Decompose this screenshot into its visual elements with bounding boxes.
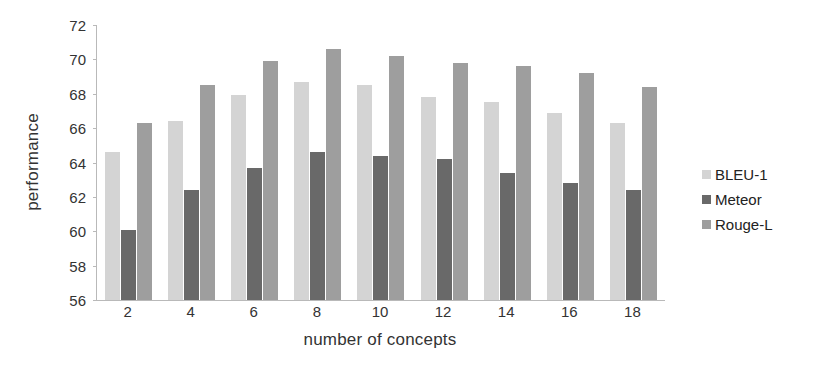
bar-meteor-18 bbox=[626, 190, 641, 300]
bar-group bbox=[160, 25, 223, 300]
bar-bleu-1-16 bbox=[547, 113, 562, 300]
x-axis-tick-label: 6 bbox=[222, 303, 285, 320]
bar-rouge-l-4 bbox=[200, 85, 215, 300]
bar-group bbox=[413, 25, 476, 300]
y-axis-tick-label: 68 bbox=[52, 85, 86, 102]
y-axis-tick-mark bbox=[93, 300, 97, 301]
bar-meteor-10 bbox=[373, 156, 388, 300]
bar-meteor-14 bbox=[500, 173, 515, 300]
bar-group bbox=[539, 25, 602, 300]
bar-bleu-1-18 bbox=[610, 123, 625, 300]
x-axis-tick-label: 12 bbox=[412, 303, 475, 320]
bar-rouge-l-12 bbox=[453, 63, 468, 300]
x-axis-tick-label: 10 bbox=[348, 303, 411, 320]
y-axis-title: performance bbox=[23, 82, 43, 242]
bar-bleu-1-2 bbox=[105, 152, 120, 300]
bar-group bbox=[476, 25, 539, 300]
legend-swatch-icon bbox=[702, 220, 711, 229]
y-axis-tick-label: 72 bbox=[52, 17, 86, 34]
bar-meteor-16 bbox=[563, 183, 578, 300]
bars-layer bbox=[97, 25, 665, 300]
x-axis-tick-labels: 24681012141618 bbox=[96, 303, 664, 320]
plot-area bbox=[96, 25, 665, 301]
bar-meteor-2 bbox=[121, 230, 136, 300]
x-axis-tick-label: 8 bbox=[285, 303, 348, 320]
bar-bleu-1-4 bbox=[168, 121, 183, 300]
bar-meteor-6 bbox=[247, 168, 262, 300]
legend-label: BLEU-1 bbox=[715, 166, 768, 183]
bar-rouge-l-2 bbox=[137, 123, 152, 300]
y-axis-tick-label: 58 bbox=[52, 257, 86, 274]
legend-swatch-icon bbox=[702, 195, 711, 204]
legend-label: Meteor bbox=[715, 191, 762, 208]
y-axis-tick-labels: 565860626466687072 bbox=[52, 25, 86, 300]
bar-bleu-1-8 bbox=[294, 82, 309, 300]
bar-group bbox=[286, 25, 349, 300]
x-axis-title: number of concepts bbox=[96, 330, 664, 350]
bar-bleu-1-12 bbox=[421, 97, 436, 300]
x-axis-tick-label: 18 bbox=[601, 303, 664, 320]
bar-bleu-1-10 bbox=[357, 85, 372, 300]
bar-rouge-l-10 bbox=[389, 56, 404, 300]
bar-group bbox=[223, 25, 286, 300]
y-axis-tick-label: 56 bbox=[52, 292, 86, 309]
bar-group bbox=[97, 25, 160, 300]
bar-rouge-l-6 bbox=[263, 61, 278, 300]
legend-item-meteor: Meteor bbox=[702, 187, 773, 212]
y-axis-tick-label: 64 bbox=[52, 154, 86, 171]
bar-rouge-l-8 bbox=[326, 49, 341, 300]
legend: BLEU-1MeteorRouge-L bbox=[702, 162, 773, 237]
y-axis-tick-label: 66 bbox=[52, 120, 86, 137]
bar-meteor-4 bbox=[184, 190, 199, 300]
legend-label: Rouge-L bbox=[715, 216, 773, 233]
legend-item-rouge-l: Rouge-L bbox=[702, 212, 773, 237]
bar-meteor-8 bbox=[310, 152, 325, 300]
legend-item-bleu-1: BLEU-1 bbox=[702, 162, 773, 187]
bar-rouge-l-14 bbox=[516, 66, 531, 300]
x-axis-tick-label: 2 bbox=[96, 303, 159, 320]
legend-swatch-icon bbox=[702, 170, 711, 179]
bar-bleu-1-14 bbox=[484, 102, 499, 300]
y-axis-tick-label: 70 bbox=[52, 51, 86, 68]
y-axis-tick-label: 62 bbox=[52, 188, 86, 205]
y-axis-tick-label: 60 bbox=[52, 223, 86, 240]
x-axis-tick-label: 14 bbox=[475, 303, 538, 320]
bar-group bbox=[349, 25, 412, 300]
bar-rouge-l-16 bbox=[579, 73, 594, 300]
bar-chart: performance 565860626466687072 246810121… bbox=[0, 0, 817, 374]
bar-group bbox=[602, 25, 665, 300]
bar-bleu-1-6 bbox=[231, 95, 246, 300]
bar-rouge-l-18 bbox=[642, 87, 657, 300]
bar-meteor-12 bbox=[437, 159, 452, 300]
x-axis-tick-label: 4 bbox=[159, 303, 222, 320]
x-axis-tick-label: 16 bbox=[538, 303, 601, 320]
